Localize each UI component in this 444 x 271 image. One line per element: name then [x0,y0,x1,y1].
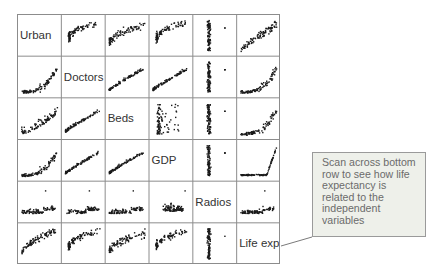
scatter-cell [68,228,101,250]
scatter-cell [157,104,180,135]
scatter-cell [22,190,56,214]
scatter-cell [240,190,274,214]
scatter-cell [21,107,58,134]
scatter-cell [153,68,188,91]
scatter-cell [68,22,97,43]
scatter-cell [109,190,144,214]
diagonal-label-cell: Life exp [239,237,279,249]
scatter-cell [65,109,100,132]
scatter-cell [65,151,99,175]
diagonal-label-cell: Urban [20,29,51,41]
scatter-cell [207,20,226,51]
scatter-cell [240,111,277,136]
variable-label: Doctors [64,71,104,83]
scatter-cell [155,20,186,43]
variable-label: GDP [152,154,177,166]
scatter-cell [240,147,277,176]
scatter-cell [163,190,186,212]
diagonal-label-cell: GDP [152,154,177,166]
scatter-cell [109,153,144,175]
scatter-cell [21,229,56,255]
scatter-cell [155,229,187,250]
variable-label: Beds [108,112,134,124]
variable-label: Urban [20,29,51,41]
scatterplot-matrix: UrbanDoctorsBedsGDPRadiosLife exp [17,14,280,264]
scatter-cell [21,153,57,178]
scatter-cell [109,68,144,91]
scatter-cell [241,21,278,52]
scatter-cell [109,228,146,253]
scatter-cell [240,67,277,94]
diagonal-label-cell: Beds [108,112,134,124]
annotation-callout: Scan across bottom row to see how life e… [312,152,426,237]
diagonal-label-cell: Radios [195,196,231,208]
scatter-cell [206,145,225,176]
diagonal-label-cell: Doctors [64,71,104,83]
variable-label: Life exp [239,237,279,249]
callout-line: Scan across bottom [322,157,419,169]
scatter-cell [109,23,146,46]
scatter-cell [206,62,225,93]
scatter-cell [22,69,58,94]
variable-label: Radios [195,196,231,208]
scatter-cell [206,104,225,134]
scatter-cell [66,190,99,214]
callout-line: variables [322,215,419,227]
scatter-cell [206,228,225,259]
